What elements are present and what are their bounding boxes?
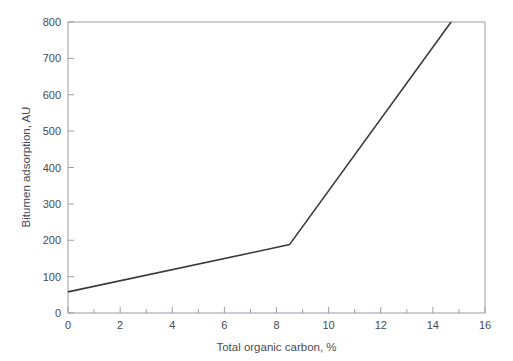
- x-tick-label-8: 8: [273, 319, 279, 331]
- series-line-bitumen-adsorption: [68, 22, 451, 292]
- x-tick-label-2: 2: [117, 319, 123, 331]
- x-axis-tick-labels: 0246810121416: [65, 319, 491, 331]
- y-tick-label-600: 600: [43, 89, 61, 101]
- y-tick-label-700: 700: [43, 52, 61, 64]
- y-tick-label-800: 800: [43, 16, 61, 28]
- y-axis-title: Bitumen adsorption, AU: [20, 107, 32, 228]
- chart-canvas: 0246810121416 0100200300400500600700800 …: [0, 0, 513, 361]
- y-axis-tick-labels: 0100200300400500600700800: [43, 16, 61, 319]
- y-tick-label-200: 200: [43, 234, 61, 246]
- y-axis-major-ticks: [68, 22, 74, 313]
- x-tick-label-16: 16: [479, 319, 491, 331]
- chart-figure: 0246810121416 0100200300400500600700800 …: [0, 0, 513, 361]
- x-tick-label-6: 6: [221, 319, 227, 331]
- y-tick-label-300: 300: [43, 198, 61, 210]
- data-series-group: [68, 22, 451, 292]
- x-tick-label-10: 10: [323, 319, 335, 331]
- y-tick-label-100: 100: [43, 271, 61, 283]
- x-tick-label-4: 4: [169, 319, 175, 331]
- x-tick-label-0: 0: [65, 319, 71, 331]
- plot-frame: [68, 22, 485, 313]
- x-tick-label-12: 12: [375, 319, 387, 331]
- x-axis-major-ticks: [68, 307, 485, 313]
- y-tick-label-400: 400: [43, 162, 61, 174]
- y-tick-label-0: 0: [55, 307, 61, 319]
- x-tick-label-14: 14: [427, 319, 439, 331]
- x-axis-title: Total organic carbon, %: [216, 341, 336, 353]
- y-tick-label-500: 500: [43, 125, 61, 137]
